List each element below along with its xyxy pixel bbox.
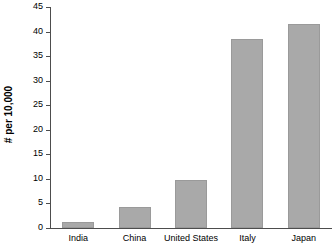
y-axis-tick-label: 30 xyxy=(33,75,43,86)
x-axis-label: Japan xyxy=(244,232,332,244)
y-axis-tick-label: 35 xyxy=(33,50,43,61)
bar xyxy=(288,24,320,228)
y-axis-tick: 15 xyxy=(0,154,50,155)
bar xyxy=(62,222,94,228)
y-axis-tick-label: 20 xyxy=(33,124,43,135)
x-axis-line xyxy=(50,228,332,229)
y-axis-tick: 0 xyxy=(0,228,50,229)
y-axis-tick: 35 xyxy=(0,56,50,57)
y-axis-tick: 40 xyxy=(0,32,50,33)
y-axis-title: # per 10,000 xyxy=(0,0,18,228)
y-axis-tick: 30 xyxy=(0,81,50,82)
bar xyxy=(175,180,207,228)
plot-area xyxy=(50,7,332,228)
y-axis-tick-label: 40 xyxy=(33,26,43,37)
bar xyxy=(119,207,151,228)
y-axis-tick-label: 25 xyxy=(33,99,43,110)
y-axis-tick: 20 xyxy=(0,130,50,131)
y-axis-tick: 45 xyxy=(0,7,50,8)
bar-chart: # per 10,000 051015202530354045 IndiaChi… xyxy=(0,0,332,248)
bar xyxy=(231,39,263,228)
y-axis-tick: 5 xyxy=(0,203,50,204)
y-axis-tick-label: 10 xyxy=(33,173,43,184)
y-axis-tick-label: 15 xyxy=(33,148,43,159)
y-axis-title-text: # per 10,000 xyxy=(4,85,15,142)
y-axis-tick-label: 5 xyxy=(38,197,43,208)
y-axis-tick: 10 xyxy=(0,179,50,180)
y-axis-tick-mark xyxy=(46,228,50,229)
y-axis-tick-label: 45 xyxy=(33,1,43,12)
y-axis-tick: 25 xyxy=(0,105,50,106)
